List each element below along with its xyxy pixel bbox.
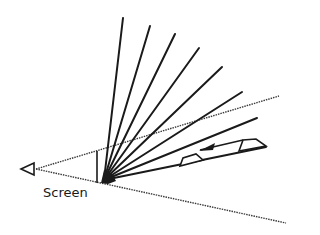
ray	[104, 18, 123, 180]
direction-arrow-icon	[199, 143, 215, 151]
screen-label: Screen	[43, 186, 88, 199]
ray-fan	[104, 18, 266, 180]
eye-point-icon	[21, 163, 34, 175]
view-frustum	[36, 96, 286, 223]
object-rear-segment	[180, 154, 203, 166]
